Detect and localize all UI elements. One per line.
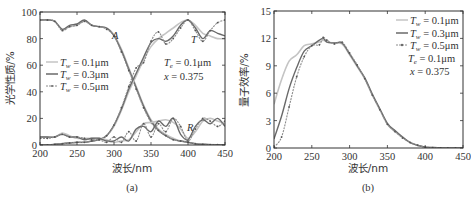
caption-b: (b) — [362, 182, 375, 194]
y-tick-label: 3 — [266, 116, 271, 127]
x-tick-label: 400 — [417, 151, 433, 162]
chart-panel-b: 20025030035040045003691215 量子效率/% 波长/nm … — [238, 6, 471, 194]
x-tick-label: 250 — [69, 148, 85, 159]
y-tick-label: 6 — [266, 88, 271, 99]
x-tick-label: 300 — [342, 151, 358, 162]
y-tick-label: 100 — [21, 7, 37, 18]
curve-label-A: A — [111, 30, 119, 41]
legend-label: Tw = 0.5μm — [410, 40, 459, 53]
y-tick-label: 12 — [261, 33, 272, 44]
legend-item: Tw = 0.5μm — [46, 81, 109, 94]
ticks-a: 200250300350400450020406080100 — [21, 7, 233, 159]
param-te-b: Te = 0.1μm — [408, 53, 455, 66]
legend-item: Tw = 0.5μm — [396, 40, 459, 53]
x-axis-label-b: 波长/nm — [348, 162, 388, 174]
y-tick-label: 0 — [266, 143, 271, 154]
series-line — [40, 118, 225, 142]
x-tick-label: 300 — [106, 148, 122, 159]
x-tick-label: 450 — [455, 151, 471, 162]
y-axis-label-b: 量子效率/% — [238, 53, 250, 107]
curve-label-T: T — [191, 34, 198, 45]
x-tick-label: 350 — [143, 148, 159, 159]
x-tick-label: 350 — [380, 151, 396, 162]
y-axis-label-a: 光学性质/% — [4, 51, 16, 105]
curve-label-R: R — [186, 122, 194, 133]
plot-area-a — [39, 19, 226, 146]
param-x-b: x = 0.375 — [409, 66, 449, 77]
x-tick-label: 400 — [180, 148, 196, 159]
x-tick-label: 450 — [217, 148, 233, 159]
figure: 200250300350400450020406080100 光学性质/% 波长… — [0, 0, 471, 202]
legend-a: Tw = 0.1μm Tw = 0.3μm Tw = 0.5μm — [46, 57, 109, 94]
legend-item: Tw = 0.1μm — [396, 15, 459, 28]
y-tick-label: 60 — [27, 60, 38, 71]
y-tick-label: 15 — [261, 6, 272, 17]
param-x-a: x = 0.375 — [163, 71, 203, 82]
y-tick-label: 80 — [27, 34, 38, 45]
x-axis-label-a: 波长/nm — [112, 162, 152, 174]
legend-label: Tw = 0.5μm — [60, 81, 109, 94]
caption-a: (a) — [126, 182, 138, 194]
y-tick-label: 9 — [266, 61, 271, 72]
y-tick-label: 0 — [32, 140, 37, 151]
legend-label: Tw = 0.1μm — [410, 15, 459, 28]
y-tick-label: 20 — [27, 113, 38, 124]
legend-b: Tw = 0.1μm Tw = 0.3μm Tw = 0.5μm — [396, 15, 459, 53]
chart-panel-a: 200250300350400450020406080100 光学性质/% 波长… — [4, 7, 233, 194]
y-tick-label: 40 — [27, 87, 38, 98]
param-te-a: Te = 0.1μm — [164, 57, 211, 70]
x-tick-label: 250 — [304, 151, 320, 162]
